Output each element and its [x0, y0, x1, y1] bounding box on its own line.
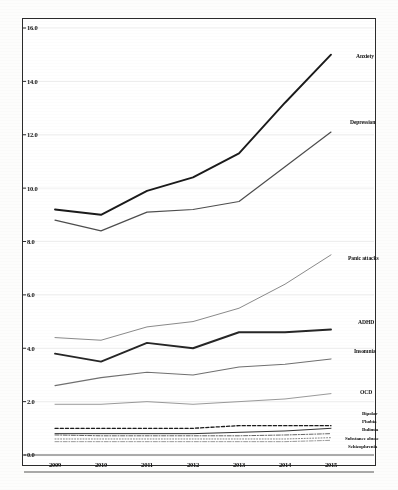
- y-tick-label: 8.0: [27, 238, 35, 245]
- series-label-adhd: ADHD: [358, 319, 374, 325]
- x-tick-label: 2011: [141, 461, 153, 468]
- y-tick-label: 12.0: [27, 131, 38, 138]
- series-line-schizophrenia: [55, 440, 331, 441]
- series-line-substance-abuse: [55, 438, 331, 439]
- y-tick-label: 10.0: [27, 185, 38, 192]
- y-tick-label: 16.0: [27, 24, 38, 31]
- series-label-bipolar: Bipolar: [362, 411, 378, 416]
- x-tick-label: 2012: [187, 461, 199, 468]
- series-label-substance-abuse: Substance abuse: [345, 436, 380, 441]
- x-tick-label: 2014: [279, 461, 292, 468]
- y-tick-label: 6.0: [27, 291, 35, 298]
- series-label-phobia: Phobia: [362, 419, 377, 424]
- series-line-panic-attacks: [55, 255, 331, 340]
- series-label-insomnia: Insomnia: [354, 348, 376, 354]
- series-line-depression: [55, 132, 331, 231]
- y-tick-label: 4.0: [27, 345, 35, 352]
- series-line-bipolar: [55, 426, 331, 429]
- series-line-insomnia: [55, 359, 331, 386]
- series-label-ocd: OCD: [360, 389, 372, 395]
- y-tick-label: 2.0: [27, 398, 35, 405]
- x-tick-label: 2015: [325, 461, 338, 468]
- x-tick-label: 2013: [233, 461, 246, 468]
- series-lines-group: [55, 55, 331, 442]
- series-label-anxiety: Anxiety: [356, 53, 374, 59]
- series-line-ocd: [55, 394, 331, 405]
- line-chart: 0.02.04.06.08.010.012.014.016.0 20092010…: [0, 0, 398, 490]
- x-tick-label: 2009: [49, 461, 62, 468]
- series-label-depression: Depression: [350, 119, 376, 125]
- series-line-adhd: [55, 330, 331, 362]
- series-label-schizophrenia: Schizophrenia: [348, 444, 378, 449]
- gridlines-group: [23, 28, 374, 455]
- series-label-bulimia: Bulimia: [362, 427, 379, 432]
- figure-container: 0.02.04.06.08.010.012.014.016.0 20092010…: [0, 0, 398, 490]
- y-tick-label: 14.0: [27, 78, 38, 85]
- x-axis-tick-labels: 2009201020112012201320142015: [49, 461, 338, 468]
- series-labels-group: AnxietyDepressionPanic attacksADHDInsomn…: [345, 53, 380, 449]
- x-tick-label: 2010: [95, 461, 107, 468]
- series-label-panic-attacks: Panic attacks: [348, 255, 379, 261]
- series-line-phobia: [55, 428, 331, 433]
